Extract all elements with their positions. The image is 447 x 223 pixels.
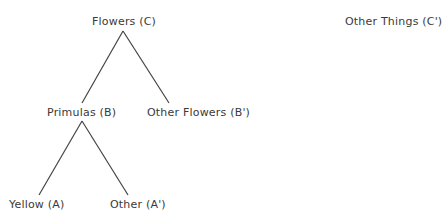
node-primulas: Primulas (B) [47, 106, 116, 119]
node-other-things: Other Things (C') [345, 15, 442, 28]
edge-primulas-other [82, 121, 128, 195]
node-flowers: Flowers (C) [92, 15, 156, 28]
node-yellow: Yellow (A) [9, 198, 64, 211]
node-other: Other (A') [110, 198, 166, 211]
edge-flowers-primulas [82, 31, 123, 103]
node-other-flowers: Other Flowers (B') [147, 106, 250, 119]
edge-flowers-other-flowers [123, 31, 169, 103]
edge-primulas-yellow [39, 121, 82, 195]
